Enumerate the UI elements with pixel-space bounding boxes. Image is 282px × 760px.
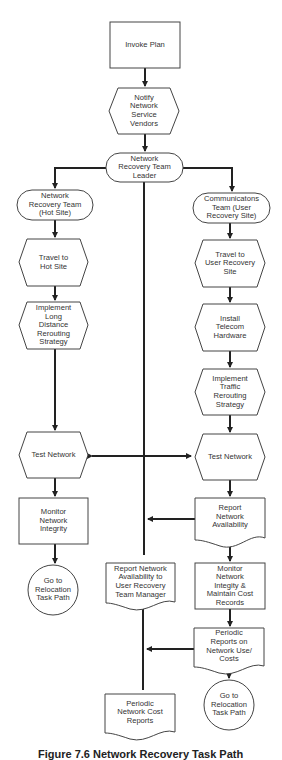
document-periodic-cost-reports [105, 694, 175, 740]
hexagon-install-telecom [195, 304, 265, 351]
process-box-monitor-cost [195, 563, 265, 609]
document-report-to-manager [106, 563, 175, 610]
terminator-network-team [17, 190, 93, 220]
hexagon-travel-hot-site [19, 239, 88, 286]
connector-goto-relocation-left [28, 565, 78, 615]
hexagon-notify-vendors [109, 88, 179, 134]
hexagon-implement-traffic [195, 369, 265, 415]
document-periodic-use-costs [194, 628, 264, 674]
terminator-comms-team [193, 193, 270, 223]
hexagon-travel-user-site [195, 240, 265, 287]
document-report-availability [195, 498, 265, 547]
figure-caption: Figure 7.6 Network Recovery Task Path [38, 748, 243, 760]
edge-leader-network-team [55, 168, 106, 188]
process-box-monitor-integrity [19, 498, 88, 544]
process-box-invoke-plan [110, 22, 180, 68]
hexagon-test-network-right [195, 434, 265, 480]
hexagon-test-network-left [19, 432, 88, 478]
hexagon-implement-long-distance [19, 302, 88, 349]
connector-goto-relocation-right [204, 680, 254, 730]
edge-leader-comms-team [183, 168, 232, 191]
terminator-team-leader [106, 153, 183, 182]
